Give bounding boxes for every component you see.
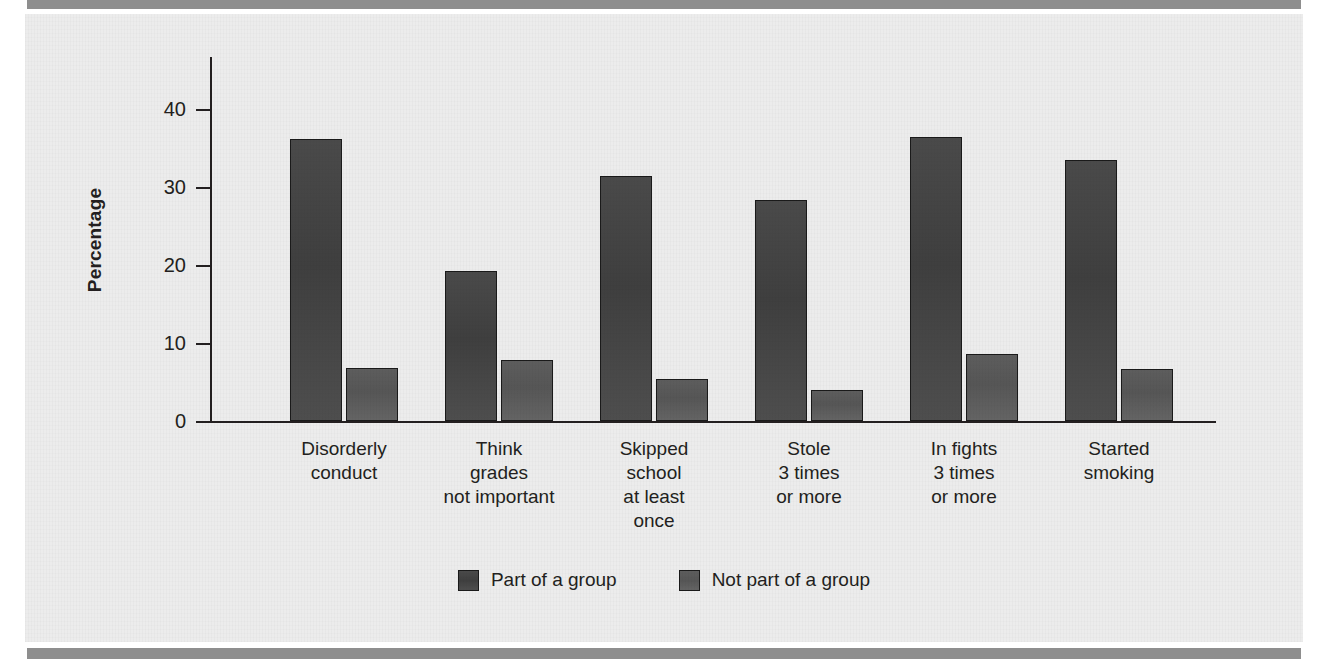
bar [501, 360, 553, 421]
category-label-line: once [544, 509, 764, 533]
x-axis-line [210, 421, 1216, 423]
y-axis-title: Percentage [84, 140, 106, 340]
y-tick-label-30: 30 [164, 177, 186, 197]
category-label: Startedsmoking [1009, 437, 1229, 485]
legend-item: Not part of a group [679, 569, 870, 591]
category-label-line: Started [1009, 437, 1229, 461]
y-tick-label-0: 0 [175, 411, 186, 431]
decorative-rule-bottom [27, 648, 1301, 659]
y-tick-20 [196, 265, 210, 267]
bar [290, 139, 342, 421]
legend-swatch [458, 570, 479, 591]
y-tick-10 [196, 343, 210, 345]
category-label-line: or more [854, 485, 1074, 509]
y-axis-line [210, 57, 212, 423]
bar [1121, 369, 1173, 421]
bar [656, 379, 708, 421]
legend-label: Part of a group [491, 569, 617, 591]
y-tick-40 [196, 109, 210, 111]
category-label-line: smoking [1009, 461, 1229, 485]
bar [910, 137, 962, 421]
legend-label: Not part of a group [712, 569, 870, 591]
bar [755, 200, 807, 421]
figure-container: Percentage 010203040 DisorderlyconductTh… [0, 0, 1324, 661]
y-tick-label-20: 20 [164, 255, 186, 275]
y-tick-label-10: 10 [164, 333, 186, 353]
legend-swatch [679, 570, 700, 591]
bar [600, 176, 652, 421]
y-tick-30 [196, 187, 210, 189]
decorative-rule-top [27, 0, 1301, 9]
plot-area: Percentage 010203040 DisorderlyconductTh… [25, 14, 1303, 642]
bar [811, 390, 863, 421]
y-tick-0 [196, 421, 210, 423]
chart-panel: Percentage 010203040 DisorderlyconductTh… [25, 14, 1303, 642]
legend-item: Part of a group [458, 569, 617, 591]
bar [966, 354, 1018, 421]
bar [346, 368, 398, 421]
chart-legend: Part of a groupNot part of a group [25, 569, 1303, 591]
y-tick-label-40: 40 [164, 99, 186, 119]
bar [1065, 160, 1117, 421]
bar [445, 271, 497, 421]
